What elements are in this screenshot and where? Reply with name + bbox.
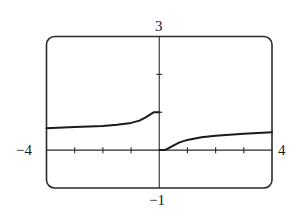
graphing-calculator-plot bbox=[0, 0, 297, 219]
x-max-label: 4 bbox=[278, 143, 286, 158]
y-min-label: −1 bbox=[149, 193, 165, 208]
x-min-label: −4 bbox=[16, 143, 32, 158]
y-max-label: 3 bbox=[155, 19, 163, 34]
left-branch-curve bbox=[47, 112, 160, 128]
